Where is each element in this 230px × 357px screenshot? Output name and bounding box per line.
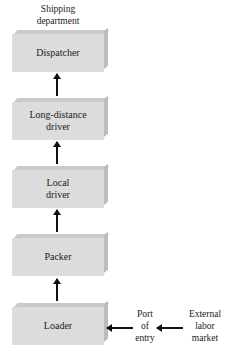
- external-labor-market-label: External labor market: [183, 308, 227, 344]
- label-line: market: [183, 332, 227, 344]
- box-label: driver: [29, 121, 86, 133]
- box-label: Packer: [44, 251, 71, 263]
- box-long-distance-driver: Long-distancedriver: [12, 102, 104, 140]
- arrow-up-icon: [56, 279, 58, 301]
- label-line: department: [20, 15, 96, 27]
- label-line: Port: [134, 308, 156, 320]
- label-line: entry: [134, 332, 156, 344]
- box-loader: Loader: [12, 307, 104, 345]
- box-label: Long-distance: [29, 109, 86, 121]
- label-line: External: [183, 308, 227, 320]
- arrow-left-icon: [157, 327, 183, 329]
- label-line: labor: [183, 320, 227, 332]
- arrow-left-icon: [107, 327, 133, 329]
- box-packer: Packer: [12, 238, 104, 276]
- box-label: Local: [46, 177, 70, 189]
- label-line: Shipping: [20, 3, 96, 15]
- port-of-entry-label: Port of entry: [134, 308, 156, 344]
- label-line: of: [134, 320, 156, 332]
- box-dispatcher: Dispatcher: [12, 34, 104, 72]
- box-local-driver: Localdriver: [12, 170, 104, 208]
- box-label: Dispatcher: [36, 47, 79, 59]
- arrow-up-icon: [56, 142, 58, 164]
- box-label: driver: [46, 189, 70, 201]
- box-label: Loader: [44, 320, 72, 332]
- department-label: Shipping department: [20, 3, 96, 27]
- arrow-up-icon: [56, 74, 58, 96]
- arrow-up-icon: [56, 210, 58, 232]
